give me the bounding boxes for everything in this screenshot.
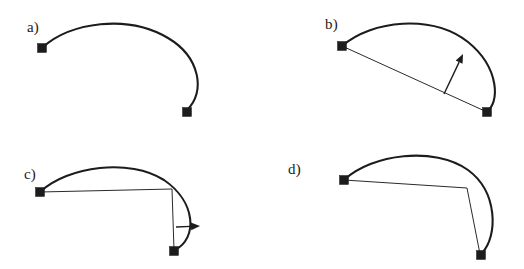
endpoint-square-a-start [38,44,47,53]
endpoint-square-b-start [338,42,347,51]
figure-background [0,0,524,269]
endpoint-square-a-end [183,108,192,117]
endpoint-square-d-end [477,251,486,260]
panel-label-c: c) [24,166,36,183]
endpoint-square-d-start [340,176,349,185]
arrow-shaft-c [176,226,191,227]
endpoint-square-c-end [170,247,179,256]
figure-root: a)b)c)d) [0,0,524,269]
panel-label-a: a) [27,19,39,36]
panel-label-b: b) [325,16,338,33]
panel-label-d: d) [288,161,301,178]
endpoint-square-c-start [36,188,45,197]
figure-canvas: a)b)c)d) [0,0,524,269]
endpoint-square-b-end [483,108,492,117]
